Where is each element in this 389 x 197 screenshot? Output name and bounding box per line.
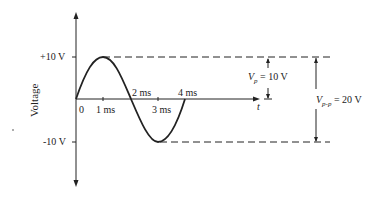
- x-tick-1ms: 1 ms: [96, 105, 115, 115]
- x-tick-4ms: 4 ms: [178, 88, 197, 98]
- x-axis-label: t: [257, 102, 260, 112]
- vpp-annotation: Vp-p = 20 V: [314, 95, 364, 108]
- y-axis-down-arrow-icon: [74, 180, 79, 187]
- vp-annotation: Vp = 10 V: [248, 72, 288, 85]
- y-axis-label: Voltage: [28, 84, 40, 117]
- y-tick-plus10: +10 V: [40, 52, 65, 62]
- x-tick-0: 0: [79, 105, 84, 115]
- x-tick-2ms: 2 ms: [132, 88, 151, 98]
- y-tick-minus10: -10 V: [43, 137, 66, 147]
- y-axis-up-arrow-icon: [74, 12, 79, 19]
- x-tick-3ms: 3 ms: [152, 105, 171, 115]
